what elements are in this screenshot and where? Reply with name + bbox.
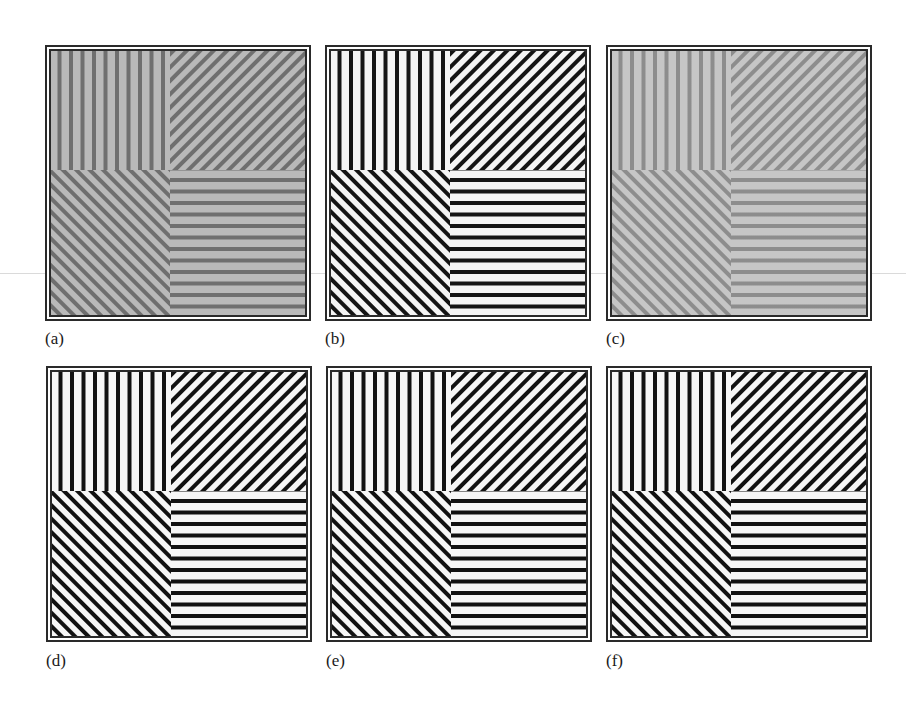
quadrant-diagonal-down-stripes [332,491,451,636]
panel-f-label: (f) [606,652,623,670]
quadrant-vertical-stripes [331,51,450,170]
quadrant-horizontal-stripes [731,170,866,315]
panel-e-label: (e) [326,652,345,670]
quadrant-horizontal-stripes [170,170,305,315]
quadrant-vertical-stripes [52,372,171,491]
quadrant-horizontal-stripes [731,491,866,636]
quadrant-horizontal-stripes [171,491,306,636]
panel-a-frame [45,45,311,321]
quadrant-diagonal-up-stripes [731,51,866,170]
quadrant-diagonal-up-stripes [171,372,306,491]
quadrant-diagonal-up-stripes [170,51,305,170]
quadrant-diagonal-down-stripes [52,491,171,636]
panel-e: (e) [326,366,592,642]
panel-f-image [610,370,868,638]
quadrant-vertical-stripes [332,372,451,491]
panel-e-image [330,370,588,638]
panel-d: (d) [46,366,312,642]
quadrant-diagonal-down-stripes [331,170,450,315]
quadrant-diagonal-down-stripes [612,170,731,315]
panel-b-frame [325,45,591,321]
panel-b: (b) [325,45,591,321]
panel-a: (a) [45,45,311,321]
quadrant-horizontal-stripes [451,491,586,636]
figure: (a) (b) (c) [0,0,906,709]
quadrant-vertical-stripes [612,372,731,491]
panel-c: (c) [606,45,872,321]
panel-d-frame [46,366,312,642]
quadrant-vertical-stripes [612,51,731,170]
quadrant-diagonal-down-stripes [51,170,170,315]
quadrant-horizontal-stripes [450,170,585,315]
panel-b-image [329,49,587,317]
quadrant-diagonal-up-stripes [731,372,866,491]
quadrant-vertical-stripes [51,51,170,170]
quadrant-diagonal-up-stripes [450,51,585,170]
panel-f-frame [606,366,872,642]
panel-d-label: (d) [46,652,66,670]
panel-b-label: (b) [325,330,345,348]
panel-e-frame [326,366,592,642]
panel-c-frame [606,45,872,321]
panel-a-label: (a) [45,330,64,348]
panel-d-image [50,370,308,638]
quadrant-diagonal-up-stripes [451,372,586,491]
panel-c-image [610,49,868,317]
panel-c-label: (c) [606,330,625,348]
panel-a-image [49,49,307,317]
quadrant-diagonal-down-stripes [612,491,731,636]
panel-f: (f) [606,366,872,642]
